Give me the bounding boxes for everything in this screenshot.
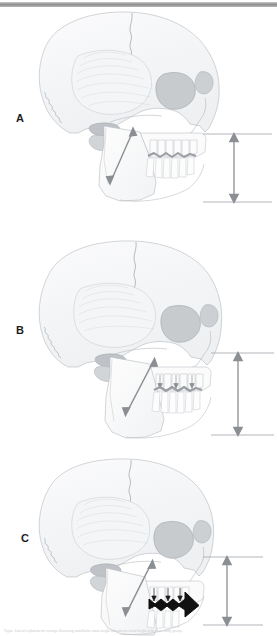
anterior-facial-height-arrow-b bbox=[234, 353, 242, 436]
mandibular-teeth-b bbox=[152, 391, 200, 413]
orbit-posterior-c bbox=[193, 521, 211, 543]
figure-caption: Figure. Lateral cephalometric tracings i… bbox=[4, 629, 274, 633]
orbit-posterior-b bbox=[200, 305, 218, 327]
orbit-b bbox=[161, 305, 201, 342]
mandibular-teeth-c bbox=[147, 611, 179, 628]
orbit-a bbox=[156, 72, 196, 109]
temporal-fossa-a bbox=[72, 50, 152, 114]
temporal-fossa-b bbox=[74, 283, 156, 347]
figure-root: A bbox=[0, 0, 277, 636]
panel-a: A bbox=[0, 0, 277, 210]
panel-b: B bbox=[0, 225, 277, 445]
panel-c: C bbox=[0, 435, 277, 636]
anterior-facial-height-arrow-c bbox=[223, 557, 231, 626]
skull-drawing-c bbox=[0, 435, 277, 636]
temporal-fossa-c bbox=[72, 497, 150, 559]
orbit-c bbox=[154, 521, 194, 558]
orbit-posterior-a bbox=[195, 72, 213, 94]
maxillary-teeth-c bbox=[150, 587, 189, 602]
skull-drawing-a bbox=[0, 0, 277, 210]
anterior-facial-height-arrow-a bbox=[230, 134, 238, 203]
mandibular-teeth-a bbox=[146, 157, 194, 178]
skull-drawing-b bbox=[0, 225, 277, 445]
